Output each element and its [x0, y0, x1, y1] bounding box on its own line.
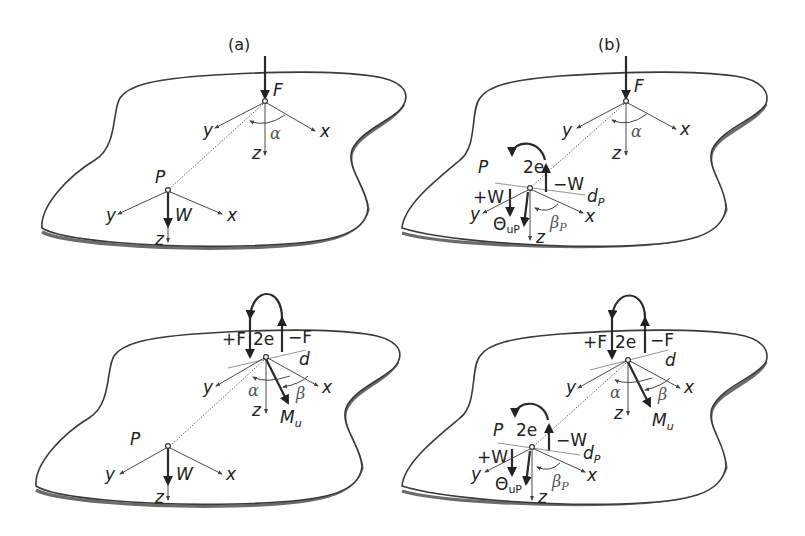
alpha-label: α — [248, 381, 259, 400]
force-label: F — [273, 80, 283, 100]
load-point — [626, 358, 631, 363]
d-label: d — [299, 349, 310, 369]
x-label: x — [319, 121, 331, 141]
point-label: P — [155, 167, 166, 187]
z-label-p: z — [154, 229, 165, 249]
y-label-p: y — [469, 204, 481, 224]
x-label-p: x — [586, 465, 598, 485]
point-p — [528, 186, 533, 191]
force-label: F — [634, 76, 644, 96]
y-label: y — [561, 120, 573, 140]
z-label-p: z — [535, 227, 546, 247]
y-label: y — [202, 120, 214, 140]
beta-label: β — [657, 385, 667, 404]
z-label-p: z — [537, 487, 548, 507]
point-p — [530, 445, 535, 450]
plate-load-diagram: (a) (b) F y x z α P y x z W F — [0, 0, 805, 536]
y-label: y — [202, 377, 214, 397]
panel-bottom-right — [402, 330, 767, 504]
point-p — [166, 188, 171, 193]
load-label: W — [176, 464, 194, 484]
load-point — [264, 355, 269, 360]
alpha-label: α — [631, 122, 642, 141]
plus-force-label: +F — [222, 329, 246, 349]
load-point — [624, 99, 629, 104]
x-label-p: x — [584, 206, 596, 226]
point-label: P — [478, 157, 489, 177]
y-label: y — [565, 377, 577, 397]
eccentricity-label: 2e — [615, 332, 636, 352]
z-label: z — [251, 400, 262, 420]
z-label: z — [613, 403, 624, 423]
y-label-p: y — [104, 464, 116, 484]
alpha-label: α — [270, 124, 281, 143]
eccentricity-label: 2e — [253, 329, 274, 349]
minus-force-label: −F — [288, 327, 312, 347]
plus-force-label: +F — [583, 332, 607, 352]
panel-top-left: F y x z α P y x z W — [42, 56, 406, 249]
moment-arc — [250, 294, 282, 318]
panel-top-right: F y x z α P dP 2e −W +W y x z ΘuP βP — [402, 56, 767, 247]
point-label: P — [130, 429, 141, 449]
eccentricity-label-p: 2e — [516, 420, 537, 440]
point-label: P — [493, 420, 504, 440]
x-label: x — [683, 377, 695, 397]
x-label: x — [321, 377, 333, 397]
load-point — [263, 99, 268, 104]
y-label-p: y — [105, 205, 117, 225]
panel-label-b: (b) — [598, 35, 621, 54]
x-label-p: x — [225, 464, 237, 484]
eccentricity-label: 2e — [523, 157, 544, 177]
moment-arc — [612, 296, 645, 319]
load-label: W — [175, 205, 193, 225]
panel-label-a: (a) — [228, 35, 250, 54]
z-label-p: z — [154, 487, 165, 507]
panel-bottom-left — [36, 330, 400, 506]
beta-label: β — [295, 384, 305, 403]
z-label: z — [611, 143, 622, 163]
minus-force-label: −F — [650, 330, 674, 350]
x-label-p: x — [226, 205, 238, 225]
alpha-label: α — [610, 383, 621, 402]
y-label-p: y — [470, 464, 482, 484]
d-label: d — [665, 350, 676, 370]
plus-load-label: +W — [477, 447, 508, 467]
minus-load-label: −W — [553, 174, 584, 194]
z-label: z — [251, 143, 262, 163]
x-label: x — [679, 119, 691, 139]
point-p — [166, 444, 171, 449]
